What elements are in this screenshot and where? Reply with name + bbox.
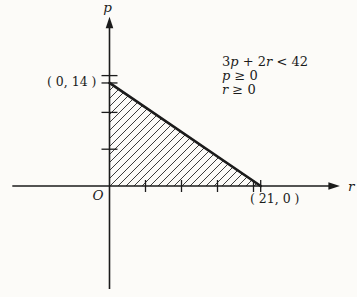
x-axis-label: r [348,178,356,194]
inequality-graph: p r O ( 0, 14 ) ( 21, 0 ) 3p + 2r < 42 p… [0,0,357,297]
x-intercept-label: ( 21, 0 ) [250,191,300,206]
inequality-annotation-line-3: r ≥ 0 [222,82,256,97]
origin-label: O [92,187,103,203]
figure-container: p r O ( 0, 14 ) ( 21, 0 ) 3p + 2r < 42 p… [0,0,357,297]
y-axis-arrowhead-icon [106,17,114,29]
y-intercept-label: ( 0, 14 ) [47,74,97,89]
inequality-annotation-line-1: 3p + 2r < 42 [222,54,308,69]
x-axis-arrowhead-icon [328,182,340,190]
y-axis-label: p [103,0,112,15]
